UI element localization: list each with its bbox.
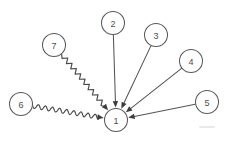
node-6[interactable]: 6 xyxy=(10,93,33,116)
arrowhead-2-to-1 xyxy=(113,101,118,107)
node-4[interactable]: 4 xyxy=(180,50,203,73)
node-label-1: 1 xyxy=(113,116,118,126)
arrowhead-7-to-1 xyxy=(102,104,108,111)
edge-7-to-1 xyxy=(62,54,105,106)
node-label-6: 6 xyxy=(18,100,23,110)
edge-5-to-1 xyxy=(133,104,195,116)
node-3[interactable]: 3 xyxy=(145,24,168,47)
edge-6-to-1 xyxy=(33,105,99,120)
diagram-svg: 1234567 xyxy=(0,0,235,141)
node-7[interactable]: 7 xyxy=(43,34,66,57)
node-label-2: 2 xyxy=(110,19,115,29)
node-1[interactable]: 1 xyxy=(105,109,128,132)
node-5[interactable]: 5 xyxy=(196,91,219,114)
node-2[interactable]: 2 xyxy=(102,12,125,35)
node-label-5: 5 xyxy=(204,98,209,108)
arrowhead-4-to-1 xyxy=(126,106,133,112)
edge-2-to-1 xyxy=(113,35,115,103)
arrowhead-6-to-1 xyxy=(97,114,104,119)
arrowhead-5-to-1 xyxy=(128,114,135,119)
node-label-7: 7 xyxy=(51,41,56,51)
node-label-4: 4 xyxy=(188,57,193,67)
scan-artifact xyxy=(199,126,215,128)
node-label-3: 3 xyxy=(153,31,158,41)
diagram-canvas: 1234567 xyxy=(0,0,235,141)
